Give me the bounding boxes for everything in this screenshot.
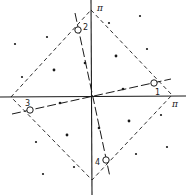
lattice-dot: [53, 69, 56, 72]
lattice-dot: [115, 55, 118, 58]
point-1-marker: [151, 80, 157, 86]
lattice-dot: [73, 166, 75, 168]
x-axis-pi-label: π: [171, 99, 179, 109]
lattice-dot: [160, 114, 162, 116]
vertical-axis: [91, 0, 92, 195]
point-3-label: 3: [25, 99, 30, 108]
lattice-dot: [108, 22, 110, 24]
point-2-marker: [75, 27, 81, 33]
point-4-marker: [103, 157, 109, 163]
line-dot: [84, 62, 87, 65]
lattice-dot: [46, 36, 48, 38]
lattice-dot: [146, 48, 148, 50]
lattice-dot: [128, 120, 131, 123]
line-dot: [122, 88, 125, 91]
lattice-dot: [35, 141, 37, 143]
y-axis-pi-label: π: [96, 3, 104, 13]
lattice-dot: [66, 134, 69, 137]
lattice-dot: [166, 146, 168, 148]
lattice-dot: [14, 43, 16, 45]
rotated-axis-b: [75, 13, 110, 177]
point-4-label: 4: [95, 158, 100, 167]
line-dot: [98, 127, 101, 130]
brillouin-zone-diagram: 1 2 3 4 π π: [0, 0, 186, 195]
point-2-label: 2: [83, 23, 88, 32]
point-1-label: 1: [155, 88, 160, 97]
lattice-dot: [135, 153, 137, 155]
lattice-dot: [42, 173, 44, 175]
line-dot: [59, 102, 62, 105]
lattice-dot: [139, 15, 141, 17]
lattice-dot: [21, 76, 23, 78]
